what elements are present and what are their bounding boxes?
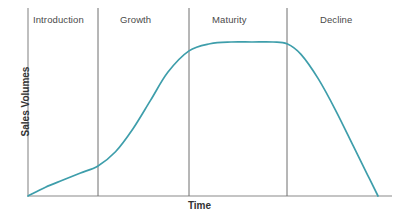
y-axis-title: Sales Volumes: [20, 47, 31, 157]
sales-volume-curve: [28, 42, 378, 196]
stage-label-maturity: Maturity: [212, 14, 247, 25]
x-axis-title: Time: [0, 200, 399, 211]
stage-label-decline: Decline: [320, 14, 352, 25]
stage-label-introduction: Introduction: [33, 14, 84, 25]
product-lifecycle-chart: Introduction Growth Maturity Decline Sal…: [0, 0, 399, 217]
chart-plot-area: [0, 0, 399, 217]
stage-label-growth: Growth: [120, 14, 151, 25]
